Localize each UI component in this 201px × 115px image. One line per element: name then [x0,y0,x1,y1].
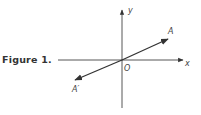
vector-a-prime-label: A′ [71,85,79,94]
vector-a [122,39,168,60]
origin-label: O [124,64,130,73]
y-axis-label: y [127,6,133,15]
coordinate-diagram: y x O A A′ [0,0,201,115]
vector-a-label: A [167,27,173,36]
x-axis-label: x [184,59,190,68]
vector-a-prime [75,60,122,80]
